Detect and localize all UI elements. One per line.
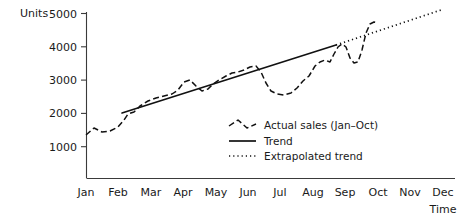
sales-trend-line-chart: Units 5000 4000 3000 2000 1000 Jan Feb M… [0,0,469,222]
x-tick-label-jun: Jun [238,186,256,199]
y-tick-label-5000: 5000 [49,8,77,21]
y-tick-label-4000: 4000 [49,41,77,54]
y-axis-title: Units [20,7,48,20]
x-tick-label-aug: Aug [302,186,323,199]
x-axis-ticks: Jan Feb Mar Apr May Jun Jul Aug Sep Oct … [77,186,454,199]
legend-swatch-actual-sales-icon [229,120,256,128]
x-tick-label-may: May [205,186,228,199]
y-tick-label-1000: 1000 [49,141,77,154]
legend-label-extrapolated-trend: Extrapolated trend [264,150,363,162]
y-axis-ticks: 5000 4000 3000 2000 1000 [49,8,87,154]
x-tick-label-nov: Nov [399,186,421,199]
x-tick-label-jan: Jan [77,186,95,199]
x-axis-title: Time [429,203,457,216]
y-tick-label-3000: 3000 [49,74,77,87]
series-trend-line [122,45,336,113]
x-tick-label-apr: Apr [173,186,193,199]
x-tick-label-dec: Dec [432,186,453,199]
series-extrapolated-trend-line [336,10,441,45]
chart-container: Units 5000 4000 3000 2000 1000 Jan Feb M… [0,0,469,222]
x-tick-label-jul: Jul [272,186,286,199]
x-tick-label-feb: Feb [108,186,127,199]
y-tick-label-2000: 2000 [49,107,77,120]
chart-legend: Actual sales (Jan–Oct) Trend Extrapolate… [229,119,378,162]
x-tick-label-sep: Sep [335,186,356,199]
x-tick-label-mar: Mar [141,186,162,199]
legend-label-trend: Trend [263,135,293,147]
x-tick-label-oct: Oct [368,186,388,199]
legend-label-actual-sales: Actual sales (Jan–Oct) [264,119,378,131]
